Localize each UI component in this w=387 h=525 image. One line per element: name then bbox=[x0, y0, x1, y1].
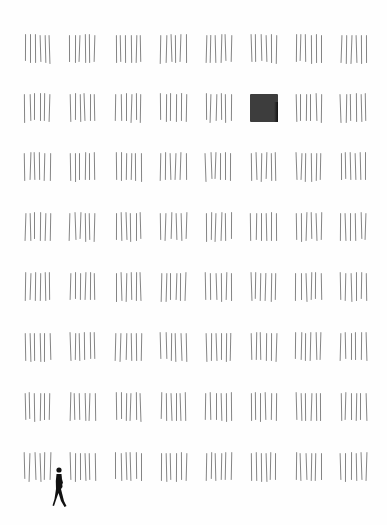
tally-mark bbox=[311, 212, 313, 239]
tally-mark bbox=[271, 393, 273, 420]
tally-group bbox=[160, 272, 188, 301]
tally-mark bbox=[205, 35, 207, 63]
tally-mark bbox=[79, 153, 80, 180]
tally-mark bbox=[29, 273, 31, 300]
tally-mark bbox=[231, 212, 233, 239]
tally-mark bbox=[185, 333, 187, 362]
tally-mark bbox=[310, 453, 312, 481]
tally-mark bbox=[361, 272, 363, 300]
tally-mark bbox=[115, 452, 116, 479]
tally-group bbox=[295, 392, 323, 421]
tally-mark bbox=[79, 333, 81, 361]
tally-mark bbox=[136, 333, 138, 361]
tally-mark bbox=[315, 213, 317, 241]
tally-mark bbox=[141, 333, 143, 361]
tally-mark bbox=[275, 34, 277, 63]
tally-mark bbox=[185, 392, 187, 421]
tally-mark bbox=[79, 453, 80, 480]
tally-mark bbox=[316, 393, 318, 421]
tally-group bbox=[295, 152, 323, 181]
tally-mark bbox=[365, 452, 367, 481]
tally-mark bbox=[340, 333, 342, 361]
tally-mark bbox=[44, 393, 45, 420]
tally-group bbox=[24, 272, 52, 301]
tally-group bbox=[115, 392, 143, 421]
tally-mark bbox=[135, 153, 137, 181]
tally-group bbox=[205, 152, 233, 181]
tally-mark bbox=[306, 94, 308, 121]
tally-mark bbox=[225, 333, 227, 362]
tally-mark bbox=[306, 452, 308, 479]
tally-mark bbox=[40, 212, 42, 241]
tally-group bbox=[250, 34, 278, 63]
tally-mark bbox=[185, 212, 187, 239]
tally-mark bbox=[296, 152, 298, 180]
tally-mark bbox=[89, 34, 91, 63]
tally-mark bbox=[265, 453, 267, 482]
tally-mark bbox=[225, 213, 227, 241]
tally-mark bbox=[251, 453, 253, 481]
tally-mark bbox=[131, 94, 133, 123]
tally-mark bbox=[120, 453, 122, 481]
tally-mark bbox=[186, 34, 188, 63]
tally-mark bbox=[30, 34, 31, 63]
tally-mark bbox=[80, 212, 82, 239]
tally-group bbox=[115, 212, 143, 241]
tally-mark bbox=[94, 273, 96, 300]
tally-mark bbox=[121, 212, 123, 241]
tally-mark bbox=[180, 333, 182, 361]
tally-group bbox=[24, 392, 52, 421]
tally-mark bbox=[225, 272, 227, 300]
tally-mark bbox=[29, 152, 31, 180]
tally-mark bbox=[266, 333, 268, 361]
tally-mark bbox=[126, 452, 128, 480]
tally-mark bbox=[365, 152, 366, 180]
tally-mark bbox=[135, 35, 137, 63]
tally-mark bbox=[84, 93, 86, 121]
tally-group bbox=[160, 93, 188, 122]
tally-mark bbox=[265, 273, 267, 301]
tally-mark bbox=[305, 393, 307, 421]
tally-mark bbox=[310, 94, 311, 121]
tally-mark bbox=[170, 453, 172, 480]
tally-mark bbox=[316, 153, 318, 181]
tally-mark bbox=[160, 213, 162, 240]
tally-mark bbox=[39, 35, 41, 62]
tally-mark bbox=[29, 213, 31, 241]
tally-mark bbox=[305, 212, 307, 241]
tally-mark bbox=[345, 152, 347, 179]
tally-mark bbox=[300, 34, 302, 61]
tally-group bbox=[160, 332, 188, 361]
tally-group bbox=[205, 452, 233, 481]
tally-mark bbox=[320, 332, 322, 360]
tally-mark bbox=[29, 392, 31, 419]
tally-group bbox=[24, 212, 52, 241]
tally-mark bbox=[24, 452, 26, 479]
tally-mark bbox=[205, 153, 207, 182]
tally-mark bbox=[170, 93, 172, 121]
tally-mark bbox=[141, 153, 143, 182]
tally-mark bbox=[115, 333, 117, 361]
tally-mark bbox=[166, 332, 168, 359]
tally-group bbox=[340, 152, 368, 181]
tally-mark bbox=[320, 393, 322, 421]
tally-mark bbox=[40, 333, 42, 362]
tally-group bbox=[295, 332, 323, 361]
tally-mark bbox=[116, 35, 118, 63]
tally-mark bbox=[206, 93, 208, 120]
tally-mark bbox=[170, 34, 172, 62]
tally-mark bbox=[321, 273, 323, 300]
tally-group bbox=[160, 392, 188, 421]
tally-mark bbox=[175, 35, 177, 63]
tally-mark bbox=[256, 213, 258, 240]
tally-mark bbox=[205, 393, 207, 420]
tally-mark bbox=[89, 393, 91, 421]
tally-group bbox=[295, 272, 323, 301]
tally-mark bbox=[276, 213, 278, 241]
tally-mark bbox=[305, 273, 307, 302]
tally-mark bbox=[256, 452, 258, 481]
tally-mark bbox=[260, 453, 262, 482]
tally-group bbox=[205, 272, 233, 301]
tally-mark bbox=[94, 35, 96, 62]
tally-mark bbox=[320, 153, 322, 180]
